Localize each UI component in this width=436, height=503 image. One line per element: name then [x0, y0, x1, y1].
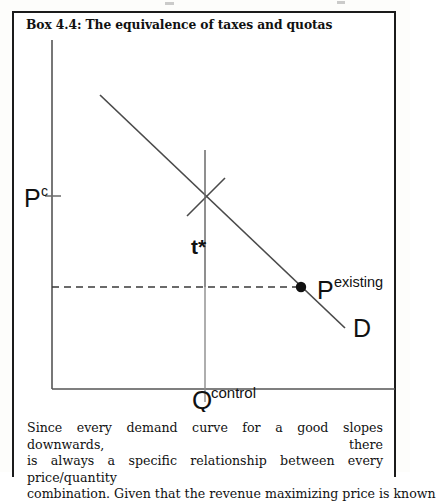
price-control-label: P [24, 184, 41, 212]
existing-price-dot [296, 282, 306, 292]
tax-label: t* [191, 235, 207, 258]
price-existing-superscript: existing [334, 274, 383, 290]
scan-speck [165, 2, 174, 5]
caption-line-3: combination. Given that the revenue maxi… [27, 486, 383, 503]
demand-curve [100, 95, 345, 328]
caption-line-2: is always a specific relationship betwee… [27, 453, 383, 486]
price-control-superscript: c [41, 183, 48, 199]
demand-curve-label: D [353, 314, 371, 342]
caption-line-1: Since every demand curve for a good slop… [27, 420, 383, 453]
quantity-control-label: Q [192, 385, 212, 412]
price-existing-label: P [317, 276, 334, 304]
figure-chart: P c P existing Q control t* D [12, 30, 396, 412]
scan-speck [337, 1, 345, 4]
caption-text: Since every demand curve for a good slop… [27, 420, 383, 503]
quantity-control-superscript: control [211, 384, 256, 401]
